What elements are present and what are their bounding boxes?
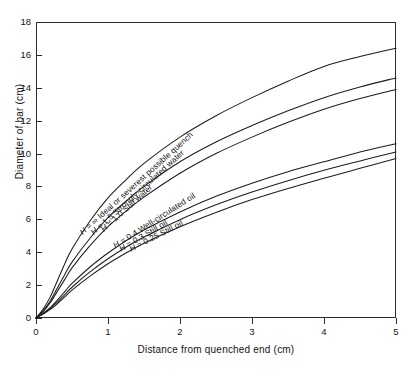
x-axis-tick-label: 4 xyxy=(321,327,326,337)
x-axis-tick-label: 1 xyxy=(105,327,110,337)
y-axis-tick-label: 0 xyxy=(0,313,31,323)
y-axis-tick-mark xyxy=(36,154,42,155)
x-axis-tick-label: 2 xyxy=(177,327,182,337)
x-axis-tick-mark xyxy=(252,318,253,324)
data-curve xyxy=(36,78,396,318)
data-curve xyxy=(36,89,396,318)
y-axis-tick-label: 2 xyxy=(0,280,31,290)
y-axis-tick-mark xyxy=(36,88,42,89)
y-axis-tick-mark xyxy=(36,22,42,23)
y-axis-tick-mark xyxy=(36,252,42,253)
x-axis-title: Distance from quenched end (cm) xyxy=(36,344,396,355)
y-axis-tick-mark xyxy=(36,55,42,56)
y-axis-tick-label: 6 xyxy=(0,214,31,224)
x-axis-tick-mark xyxy=(108,318,109,324)
data-curve xyxy=(36,48,396,318)
x-axis-tick-mark xyxy=(396,318,397,324)
x-axis-tick-mark xyxy=(324,318,325,324)
y-axis-tick-mark xyxy=(36,121,42,122)
y-axis-tick-mark xyxy=(36,186,42,187)
y-axis-tick-mark xyxy=(36,219,42,220)
y-axis-tick-label: 4 xyxy=(0,247,31,257)
x-axis-tick-mark xyxy=(180,318,181,324)
x-axis-tick-label: 3 xyxy=(249,327,254,337)
y-axis-tick-label: 16 xyxy=(0,50,31,60)
x-axis-tick-mark xyxy=(36,318,37,324)
x-axis-tick-label: 5 xyxy=(393,327,398,337)
y-axis-title: Diameter of bar (cm) xyxy=(14,67,25,197)
chart-figure: 024681012141618 012345 Distance from que… xyxy=(0,0,413,385)
y-axis-tick-mark xyxy=(36,285,42,286)
data-curve xyxy=(36,152,396,318)
x-axis-tick-label: 0 xyxy=(33,327,38,337)
curve-layer xyxy=(36,22,396,318)
y-axis-tick-label: 18 xyxy=(0,17,31,27)
